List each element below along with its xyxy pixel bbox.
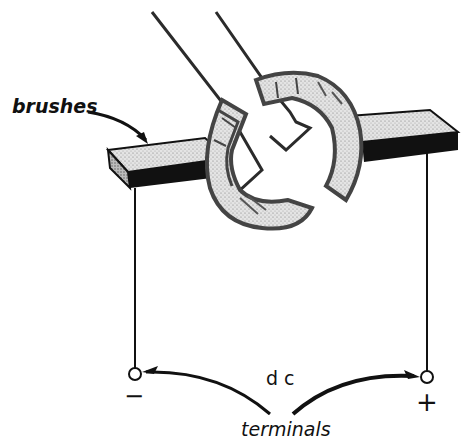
positive-sign: + — [416, 387, 438, 417]
dc-label: d c — [266, 367, 295, 389]
terminals-arrow-negative — [142, 366, 270, 414]
negative-sign: − — [124, 382, 144, 410]
positive-terminal — [421, 371, 433, 383]
right-brush — [348, 110, 458, 162]
commutator-diagram: brushes d c terminals − + — [0, 0, 462, 445]
brushes-label: brushes — [12, 95, 98, 117]
terminals-label: terminals — [241, 418, 331, 440]
terminals-arrow-positive — [293, 370, 420, 414]
negative-terminal — [129, 368, 141, 380]
